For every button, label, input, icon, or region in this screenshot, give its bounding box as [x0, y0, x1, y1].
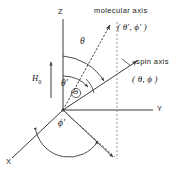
angle-theta-prime-label: θ′: [61, 79, 68, 89]
angle-phi-prime-label: ϕ′: [58, 119, 65, 129]
diagram-vector-graphics: [0, 0, 188, 171]
diagram-canvas: Z Y X molecular axis ( θ′, ϕ′ ) spin axi…: [0, 0, 188, 171]
z-axis-label: Z: [58, 8, 63, 16]
x-axis-label: X: [6, 158, 11, 166]
y-axis-label: Y: [157, 105, 162, 113]
molecular-axis-vector: [63, 25, 110, 110]
spin-axis-coords: ( θ, ϕ ): [132, 75, 158, 84]
angle-arc-theta: [63, 56, 104, 81]
molecular-axis-coords: ( θ′, ϕ′ ): [117, 23, 147, 32]
projection-xy-spin-line: [63, 110, 113, 157]
x-axis-line: [12, 110, 63, 158]
field-h0-subscript: 0: [38, 79, 41, 85]
spin-axis-vector: [63, 61, 137, 110]
field-h0-label: H0: [32, 74, 42, 85]
molecular-axis-label: molecular axis: [94, 7, 148, 15]
angle-big-theta-label: Θ: [73, 89, 78, 96]
angle-theta-label: θ: [80, 37, 85, 47]
origin-point: [62, 109, 65, 112]
spin-axis-leader-line: [122, 59, 131, 66]
angle-arc-phi-prime: [36, 131, 98, 157]
spin-axis-label: spin axis: [136, 58, 169, 66]
